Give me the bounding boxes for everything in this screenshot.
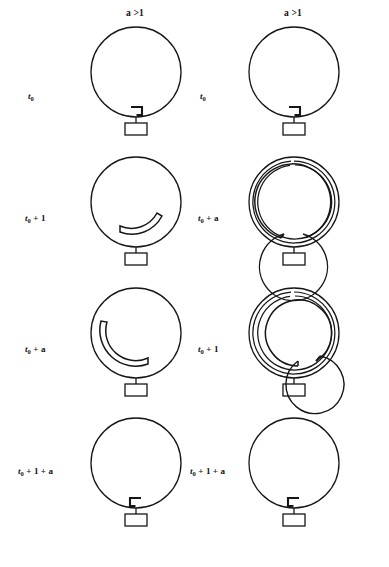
row-label-left-2: t0 + 1: [25, 213, 46, 223]
cell-body-box: [283, 123, 305, 135]
chromosome-circle: [249, 418, 339, 508]
cell-left-row2: [88, 152, 188, 270]
row-label-left-3-rest: + a: [31, 344, 46, 354]
replication-arc-short: [120, 213, 162, 234]
figure-root: a >1 a >1 t0 t0 + 1 t0 + a t0 + 1 + a t0…: [0, 0, 389, 567]
cell-body-box: [283, 253, 305, 265]
row-label-left-4-rest: + 1 + a: [24, 466, 53, 476]
row-label-right-3: t0 + 1: [198, 344, 219, 354]
cell-right-row4: [246, 413, 346, 531]
chromosome-circle: [91, 288, 181, 378]
chromosome-circle: [249, 27, 339, 117]
row-label-left-2-sub: 0: [28, 217, 31, 224]
cell-body-box: [125, 253, 147, 265]
row-label-right-2-sub: 0: [201, 217, 204, 224]
row-label-right-4-sub: 0: [193, 470, 196, 477]
row-label-right-1: t0: [200, 91, 206, 101]
chromosome-circle: [91, 418, 181, 508]
row-label-left-3-sub: 0: [28, 348, 31, 355]
replication-arc-long: [100, 321, 148, 366]
row-label-right-4: t0 + 1 + a: [190, 466, 225, 476]
cell-body-box: [125, 123, 147, 135]
column-header-right: a >1: [284, 8, 302, 18]
origin-hook-icon: [130, 498, 141, 506]
origin-hook-icon: [288, 498, 299, 506]
cell-body-box: [125, 384, 147, 396]
spiral-ring-2: [253, 161, 335, 243]
origin-hook-icon: [289, 107, 300, 115]
row-label-right-1-sub: 0: [203, 95, 206, 102]
row-label-left-4: t0 + 1 + a: [18, 466, 53, 476]
row-label-left-3: t0 + a: [25, 344, 46, 354]
cell-left-row3: [88, 283, 188, 401]
row-label-left-4-sub: 0: [21, 470, 24, 477]
spiral-ring-inner: [255, 164, 331, 238]
row-label-left-2-rest: + 1: [31, 213, 46, 223]
column-header-left: a >1: [126, 8, 144, 18]
cell-right-row2: [246, 152, 346, 270]
cell-right-row1: [246, 22, 346, 140]
cell-left-row1: [88, 22, 188, 140]
origin-hook-icon: [131, 107, 142, 115]
row-label-right-3-sub: 0: [201, 348, 204, 355]
cell-right-row3: [246, 283, 346, 401]
row-label-right-3-rest: + 1: [204, 344, 219, 354]
chromosome-circle: [91, 27, 181, 117]
row-label-left-1-sub: 0: [31, 95, 34, 102]
row-label-right-2: t0 + a: [198, 213, 219, 223]
chromosome-circle-outer: [249, 157, 339, 247]
cell-body-box: [125, 514, 147, 526]
cell-body-box: [283, 514, 305, 526]
row-label-right-2-rest: + a: [204, 213, 219, 223]
row-label-right-4-rest: + 1 + a: [196, 466, 225, 476]
row-label-left-1: t0: [28, 91, 34, 101]
spiral-ring-3: [258, 296, 332, 370]
cell-left-row4: [88, 413, 188, 531]
